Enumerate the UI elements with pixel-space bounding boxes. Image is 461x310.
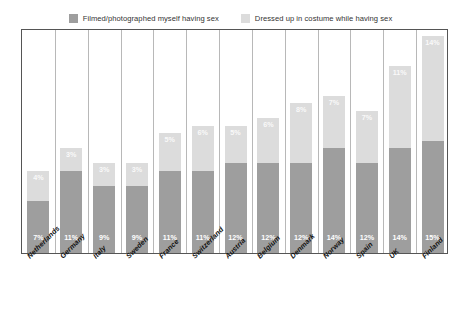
bar-value-label-filmed: 9% bbox=[99, 234, 109, 241]
bar-group[interactable]: 6%12% bbox=[257, 118, 279, 253]
bar-value-label-costume: 3% bbox=[66, 151, 76, 158]
bar-value-label-filmed: 14% bbox=[393, 234, 407, 241]
bar-value-label-costume: 5% bbox=[230, 129, 240, 136]
bar-segment-filmed[interactable]: 14% bbox=[389, 148, 411, 253]
bar-segment-costume[interactable]: 6% bbox=[257, 118, 279, 163]
chart-legend: Filmed/photographed myself having sex Dr… bbox=[0, 11, 461, 25]
bar-group[interactable]: 5%12% bbox=[225, 126, 247, 254]
plot-area: 4%7%3%11%3%9%3%9%5%11%6%11%5%12%6%12%8%1… bbox=[21, 29, 448, 254]
bar-value-label-costume: 11% bbox=[393, 69, 407, 76]
bar-value-label-costume: 7% bbox=[362, 114, 372, 121]
bar-segment-costume[interactable]: 3% bbox=[93, 163, 115, 186]
bar-segment-costume[interactable]: 11% bbox=[389, 66, 411, 149]
bar-group[interactable]: 7%12% bbox=[356, 111, 378, 254]
bar-value-label-costume: 6% bbox=[197, 129, 207, 136]
bar-group[interactable]: 14%15% bbox=[422, 36, 444, 254]
bar-group[interactable]: 11%14% bbox=[389, 66, 411, 254]
bar-group[interactable]: 5%11% bbox=[159, 133, 181, 253]
bar-value-label-costume: 7% bbox=[329, 99, 339, 106]
legend-label-filmed: Filmed/photographed myself having sex bbox=[83, 14, 219, 23]
bar-segment-costume[interactable]: 14% bbox=[422, 36, 444, 141]
bar-segment-costume[interactable]: 8% bbox=[290, 103, 312, 163]
bar-group[interactable]: 7%14% bbox=[323, 96, 345, 254]
bars-container: 4%7%3%11%3%9%3%9%5%11%6%11%5%12%6%12%8%1… bbox=[22, 30, 447, 253]
legend-label-costume: Dressed up in costume while having sex bbox=[255, 14, 392, 23]
bar-segment-costume[interactable]: 5% bbox=[225, 126, 247, 164]
legend-item-costume: Dressed up in costume while having sex bbox=[241, 14, 392, 23]
stacked-bar-chart: Filmed/photographed myself having sex Dr… bbox=[0, 0, 461, 310]
bar-value-label-costume: 6% bbox=[263, 121, 273, 128]
bar-value-label-costume: 8% bbox=[296, 106, 306, 113]
legend-swatch-costume bbox=[241, 14, 250, 23]
bar-value-label-costume: 3% bbox=[99, 166, 109, 173]
bar-value-label-costume: 5% bbox=[165, 136, 175, 143]
bar-segment-costume[interactable]: 4% bbox=[27, 171, 49, 201]
bar-group[interactable]: 3%9% bbox=[93, 163, 115, 253]
bar-value-label-costume: 3% bbox=[132, 166, 142, 173]
bar-segment-filmed[interactable]: 9% bbox=[93, 186, 115, 254]
bar-segment-costume[interactable]: 3% bbox=[60, 148, 82, 171]
bar-segment-costume[interactable]: 7% bbox=[323, 96, 345, 149]
bar-segment-costume[interactable]: 3% bbox=[126, 163, 148, 186]
bar-value-label-costume: 4% bbox=[33, 174, 43, 181]
x-axis-labels: NetherlandsGermanyItalySwedenFranceSwitz… bbox=[21, 254, 448, 310]
bar-group[interactable]: 8%12% bbox=[290, 103, 312, 253]
legend-swatch-filmed bbox=[69, 14, 78, 23]
bar-segment-costume[interactable]: 5% bbox=[159, 133, 181, 171]
legend-item-filmed: Filmed/photographed myself having sex bbox=[69, 14, 219, 23]
bar-value-label-costume: 14% bbox=[425, 39, 439, 46]
bar-segment-costume[interactable]: 7% bbox=[356, 111, 378, 164]
bar-segment-costume[interactable]: 6% bbox=[192, 126, 214, 171]
